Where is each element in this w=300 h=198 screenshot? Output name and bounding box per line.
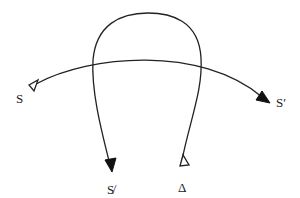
loop-arc xyxy=(93,13,201,165)
filled-arrow-end-icon xyxy=(256,91,270,103)
label-delta: Δ xyxy=(178,180,186,195)
label-s-prime: S′ xyxy=(276,95,286,110)
filled-arrow-loop-end-icon xyxy=(105,158,116,172)
label-s-struck: S̸ xyxy=(107,182,117,197)
horizontal-arc xyxy=(36,60,262,97)
label-s: S xyxy=(16,91,23,106)
open-triangle-loop-start-icon xyxy=(180,155,189,166)
diagram-canvas: S S′ S̸ Δ xyxy=(0,0,300,198)
open-triangle-start-icon xyxy=(29,80,38,91)
